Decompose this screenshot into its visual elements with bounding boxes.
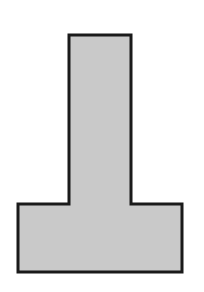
diagram-canvas bbox=[0, 0, 204, 292]
inverted-t-shape bbox=[18, 35, 182, 272]
